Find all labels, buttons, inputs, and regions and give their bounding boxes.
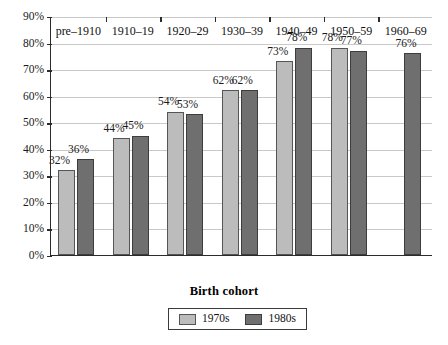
y-axis-tick-label: 40%	[4, 144, 44, 156]
x-axis-tick	[269, 17, 270, 22]
bar-group: 44%45%	[106, 17, 161, 255]
legend-label-1970s: 1970s	[202, 313, 229, 325]
bar-group: 78%77%	[324, 17, 379, 255]
legend-item-1980s[interactable]: 1980s	[245, 313, 295, 325]
bar-group: 54%53%	[160, 17, 215, 255]
plot-area: 32%36%44%45%54%53%62%62%73%78%78%77%76% …	[50, 17, 432, 256]
bar-1970s-1950–59	[331, 48, 348, 255]
legend-item-1970s[interactable]: 1970s	[179, 313, 229, 325]
y-axis-tick-label: 30%	[4, 170, 44, 182]
y-axis-tick-label: 60%	[4, 91, 44, 103]
y-axis-tick-label: 20%	[4, 197, 44, 209]
bar-1980s-1920–29	[186, 114, 203, 255]
legend-label-1980s: 1980s	[268, 313, 295, 325]
bar-1980s-1960–69	[404, 53, 421, 255]
bar-value-label: 76%	[386, 38, 426, 50]
bar-1970s-1940–49	[276, 61, 293, 255]
bar-value-label: 32%	[40, 155, 80, 167]
bar-1980s-1950–59	[350, 51, 367, 255]
x-axis-tick	[324, 17, 325, 22]
bar-1980s-1940–49	[295, 48, 312, 255]
bar-value-label: 73%	[258, 46, 298, 58]
y-axis-tick-label: 0%	[4, 250, 44, 262]
bar-group: 32%36%	[51, 17, 106, 255]
x-axis-tick-label: 1960–69	[361, 25, 448, 38]
bar-1980s-1930–39	[241, 90, 258, 255]
x-axis-tick	[215, 17, 216, 22]
bar-chart: 0%10%20%30%40%50%60%70%80%90% 32%36%44%4…	[0, 0, 448, 345]
bar-1980s-pre–1910	[77, 159, 94, 255]
bar-group: 73%78%	[269, 17, 324, 255]
x-axis-tick	[160, 17, 161, 22]
bar-1970s-1930–39	[222, 90, 239, 255]
x-axis-tick	[378, 17, 379, 22]
bar-value-label: 45%	[113, 120, 153, 132]
bar-value-label: 53%	[168, 99, 208, 111]
bar-1970s-1910–19	[113, 138, 130, 255]
y-axis-tick-label: 10%	[4, 223, 44, 235]
bar-1970s-pre–1910	[58, 170, 75, 255]
bar-1980s-1910–19	[132, 136, 149, 256]
bar-value-label: 62%	[222, 75, 262, 87]
y-axis-tick-label: 70%	[4, 64, 44, 76]
y-axis-tick-label: 80%	[4, 38, 44, 50]
y-axis-tick	[47, 256, 52, 257]
x-axis-tick	[106, 17, 107, 22]
y-axis-tick-label: 50%	[4, 117, 44, 129]
bar-1970s-1920–29	[167, 112, 184, 255]
y-axis-tick-label: 90%	[4, 11, 44, 23]
legend-swatch-1980s-icon	[245, 314, 262, 325]
x-axis-title: Birth cohort	[0, 284, 448, 299]
bar-group: 76%	[378, 17, 433, 255]
legend-swatch-1970s-icon	[179, 314, 196, 325]
bar-value-label: 36%	[59, 144, 99, 156]
legend: 1970s 1980s	[168, 308, 307, 330]
